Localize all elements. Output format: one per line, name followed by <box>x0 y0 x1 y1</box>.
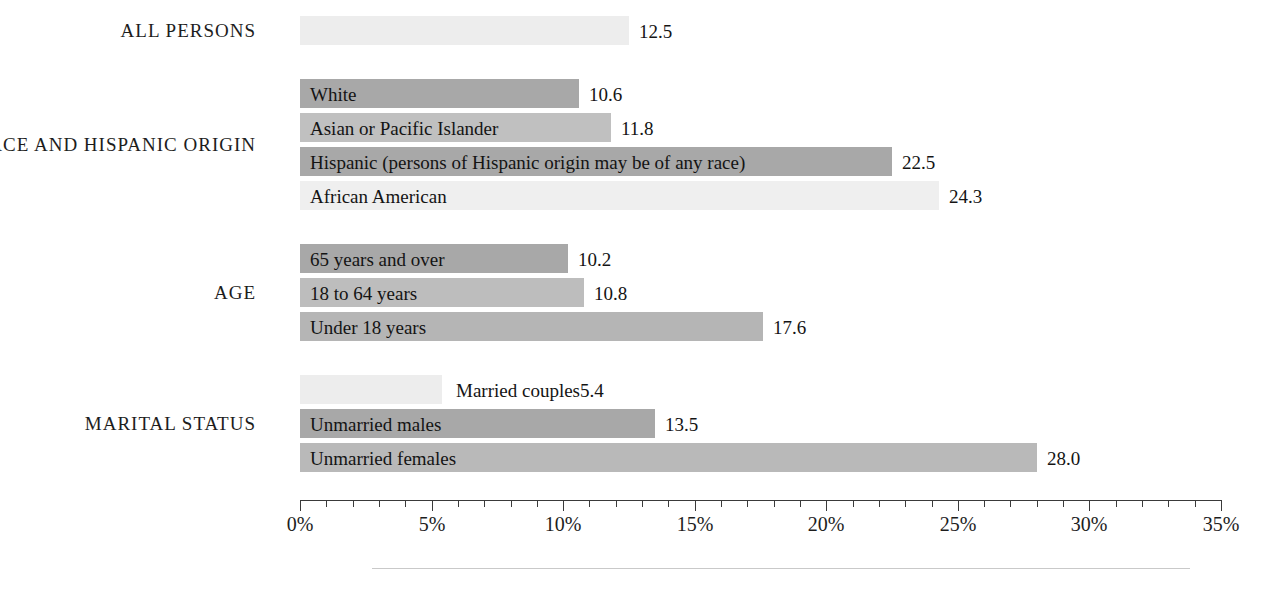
axis-tick-minor <box>1142 500 1143 507</box>
axis-tick-label: 10% <box>545 514 582 534</box>
axis-tick-minor <box>1010 500 1011 507</box>
bar-row: Unmarried females28.0 <box>300 443 1221 472</box>
bar-value-label: 24.3 <box>949 186 982 205</box>
axis-tick-minor <box>616 500 617 507</box>
bar-value-label: 28.0 <box>1047 448 1080 467</box>
axis-tick-minor <box>747 500 748 507</box>
bar-row: 12.5 <box>300 16 1221 45</box>
bar <box>300 375 442 404</box>
bar-row: 18 to 64 years10.8 <box>300 278 1221 307</box>
bar-label: African American <box>310 186 447 205</box>
group-label: RACE AND HISPANIC ORIGIN <box>0 135 256 154</box>
bar-label: Asian or Pacific Islander <box>310 118 498 137</box>
axis-tick-label: 15% <box>677 514 714 534</box>
axis-tick-minor <box>484 500 485 507</box>
axis-tick-minor <box>458 500 459 507</box>
axis-tick-minor <box>800 500 801 507</box>
axis-tick-minor <box>932 500 933 507</box>
axis-endcap <box>1221 500 1222 511</box>
axis-tick-label: 5% <box>419 514 446 534</box>
bar-label: Married couples <box>456 380 580 399</box>
axis-tick-minor <box>1168 500 1169 507</box>
bar-value-label: 22.5 <box>902 152 935 171</box>
axis-tick-major <box>1089 500 1090 511</box>
axis-tick-minor <box>589 500 590 507</box>
bar-row: 65 years and over10.2 <box>300 244 1221 273</box>
axis-tick-minor <box>905 500 906 507</box>
axis-tick-minor <box>774 500 775 507</box>
bar-value-label: 17.6 <box>773 317 806 336</box>
bar-label: 18 to 64 years <box>310 283 417 302</box>
axis-tick-minor <box>379 500 380 507</box>
axis-tick-label: 25% <box>940 514 977 534</box>
axis-tick-major <box>432 500 433 511</box>
bar-row: Unmarried males13.5 <box>300 409 1221 438</box>
axis-tick-label: 30% <box>1071 514 1108 534</box>
axis-tick-minor <box>326 500 327 507</box>
bar-value-label: 10.8 <box>594 283 627 302</box>
axis-tick-major <box>563 500 564 511</box>
axis-tick-minor <box>642 500 643 507</box>
bar-row: African American24.3 <box>300 181 1221 210</box>
bar-row: White10.6 <box>300 79 1221 108</box>
bar-label: 65 years and over <box>310 249 445 268</box>
bar-value-label: 10.6 <box>589 84 622 103</box>
axis-tick-minor <box>879 500 880 507</box>
axis-tick-major <box>958 500 959 511</box>
bar-row: Under 18 years17.6 <box>300 312 1221 341</box>
plot-area: 12.5White10.6Asian or Pacific Islander11… <box>300 0 1221 500</box>
axis-tick-minor <box>405 500 406 507</box>
bar-row: Asian or Pacific Islander11.8 <box>300 113 1221 142</box>
axis-tick-minor <box>1195 500 1196 507</box>
axis-tick-major <box>826 500 827 511</box>
bar-label: Hispanic (persons of Hispanic origin may… <box>310 152 745 171</box>
group-label: MARITAL STATUS <box>85 414 256 433</box>
bar-value-label: 12.5 <box>639 21 672 40</box>
bar-chart: ALL PERSONSRACE AND HISPANIC ORIGINAGEMA… <box>0 0 1261 593</box>
axis-tick-label: 0% <box>287 514 314 534</box>
axis-tick-major <box>695 500 696 511</box>
x-axis: 0%5%10%15%20%25%30%35% <box>300 500 1221 520</box>
bar-value-label: 5.4 <box>580 380 604 399</box>
bar-value-label: 11.8 <box>621 118 654 137</box>
axis-endcap <box>300 500 301 511</box>
axis-tick-minor <box>721 500 722 507</box>
group-label: ALL PERSONS <box>121 21 256 40</box>
bar-label: Unmarried males <box>310 414 441 433</box>
bar-row: Married couples5.4 <box>300 375 1221 404</box>
bar-label: Under 18 years <box>310 317 426 336</box>
bar-label: White <box>310 84 356 103</box>
axis-tick-minor <box>984 500 985 507</box>
axis-tick-minor <box>511 500 512 507</box>
axis-tick-label: 35% <box>1203 514 1240 534</box>
bottom-divider-rule <box>372 568 1190 569</box>
x-axis-line <box>300 500 1221 501</box>
bar-label: Unmarried females <box>310 448 456 467</box>
axis-tick-minor <box>668 500 669 507</box>
axis-tick-minor <box>537 500 538 507</box>
bar-value-label: 13.5 <box>665 414 698 433</box>
bar-row: Hispanic (persons of Hispanic origin may… <box>300 147 1221 176</box>
axis-tick-minor <box>1063 500 1064 507</box>
axis-tick-label: 20% <box>808 514 845 534</box>
axis-tick-minor <box>1037 500 1038 507</box>
axis-tick-minor <box>853 500 854 507</box>
group-label: AGE <box>214 283 256 302</box>
bar <box>300 16 629 45</box>
axis-tick-minor <box>353 500 354 507</box>
axis-tick-minor <box>1116 500 1117 507</box>
bar-value-label: 10.2 <box>578 249 611 268</box>
